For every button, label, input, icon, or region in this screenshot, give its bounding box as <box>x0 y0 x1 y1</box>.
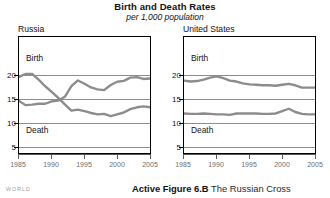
xtick-mark-2000-us <box>282 154 283 159</box>
xtick-label-1985-russia: 1985 <box>5 161 31 168</box>
series-label-birth-russia: Birth <box>25 53 44 63</box>
figure-birth-death-rates: Birth and Death Rates per 1,000 populati… <box>0 0 330 198</box>
xtick-label-2000-us: 2000 <box>269 161 295 168</box>
xtick-label-1985-us: 1985 <box>170 161 196 168</box>
panel-russia: Russia 20 15 10 5 Birth Death <box>0 24 165 174</box>
figure-title: Birth and Death Rates <box>0 1 330 12</box>
panel-title-russia: Russia <box>18 24 44 34</box>
xtick-label-1995-us: 1995 <box>236 161 262 168</box>
xtick-mark-1985-russia <box>18 154 19 159</box>
caption-figure-number: Active Figure 6.B <box>132 183 209 194</box>
xtick-mark-2005-us <box>315 154 316 159</box>
panel-title-united-states: United States <box>183 24 235 34</box>
curve-death-us <box>184 109 315 115</box>
caption-text: Active Figure 6.B The Russian Cross <box>132 183 291 194</box>
xtick-mark-1995-russia <box>84 154 85 159</box>
panel-united-states: United States 20 15 10 5 Birth Death <box>165 24 330 174</box>
plot-area-united-states: Birth Death <box>183 36 316 154</box>
xtick-mark-2005-russia <box>150 154 151 159</box>
xtick-mark-2000-russia <box>117 154 118 159</box>
series-label-birth-us: Birth <box>190 53 209 63</box>
xtick-label-2000-russia: 2000 <box>104 161 130 168</box>
xtick-mark-1990-us <box>216 154 217 159</box>
xtick-label-1995-russia: 1995 <box>71 161 97 168</box>
xtick-label-1990-us: 1990 <box>203 161 229 168</box>
curve-birth-us <box>184 76 315 87</box>
xtick-mark-1995-us <box>249 154 250 159</box>
figure-caption: WORLD Active Figure 6.B The Russian Cros… <box>0 183 330 198</box>
xtick-label-1990-russia: 1990 <box>38 161 64 168</box>
curve-birth-russia <box>19 74 150 116</box>
figure-subtitle: per 1,000 population <box>0 12 330 22</box>
xtick-label-2005-us: 2005 <box>302 161 328 168</box>
world-badge-label: WORLD <box>6 186 31 192</box>
caption-figure-title: The Russian Cross <box>209 183 291 194</box>
plot-area-russia: Birth Death <box>18 36 151 154</box>
series-label-death-us: Death <box>190 125 214 135</box>
xtick-mark-1985-us <box>183 154 184 159</box>
series-label-death-russia: Death <box>25 125 49 135</box>
xtick-mark-1990-russia <box>51 154 52 159</box>
xtick-label-2005-russia: 2005 <box>137 161 163 168</box>
